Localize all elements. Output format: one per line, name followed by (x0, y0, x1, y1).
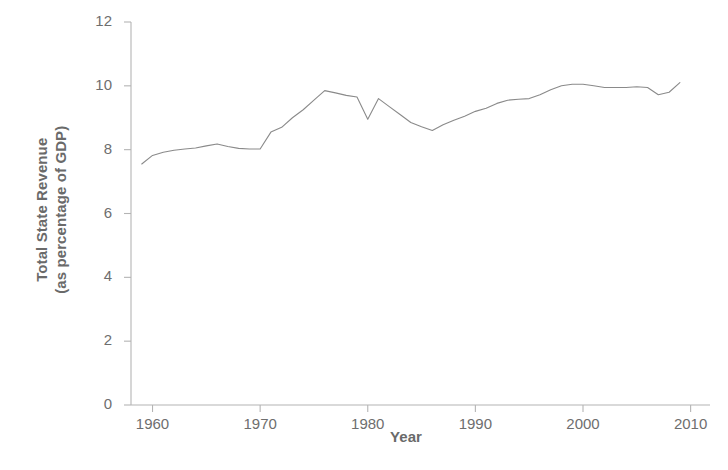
y-axis-title: Total State Revenue (as percentage of GD… (12, 0, 92, 420)
y-tick-label: 6 (82, 204, 112, 221)
data-line (142, 83, 680, 164)
chart-container: Total State Revenue (as percentage of GD… (0, 0, 728, 470)
y-tick-label: 4 (82, 267, 112, 284)
y-tick-label: 8 (82, 140, 112, 157)
y-axis-title-line2: (as percentage of GDP) (52, 126, 71, 294)
y-tick-label: 2 (82, 331, 112, 348)
x-tick-label: 1990 (445, 415, 505, 432)
y-tick-label: 10 (82, 76, 112, 93)
chart-axes (124, 22, 710, 412)
y-tick-label: 12 (82, 12, 112, 29)
x-tick-label: 2010 (661, 415, 721, 432)
y-axis-title-line1: Total State Revenue (33, 126, 52, 294)
y-tick-label: 0 (82, 395, 112, 412)
x-tick-label: 1970 (230, 415, 290, 432)
chart-series (142, 83, 680, 164)
x-tick-label: 1960 (123, 415, 183, 432)
x-tick-label: 1980 (338, 415, 398, 432)
x-tick-label: 2000 (553, 415, 613, 432)
